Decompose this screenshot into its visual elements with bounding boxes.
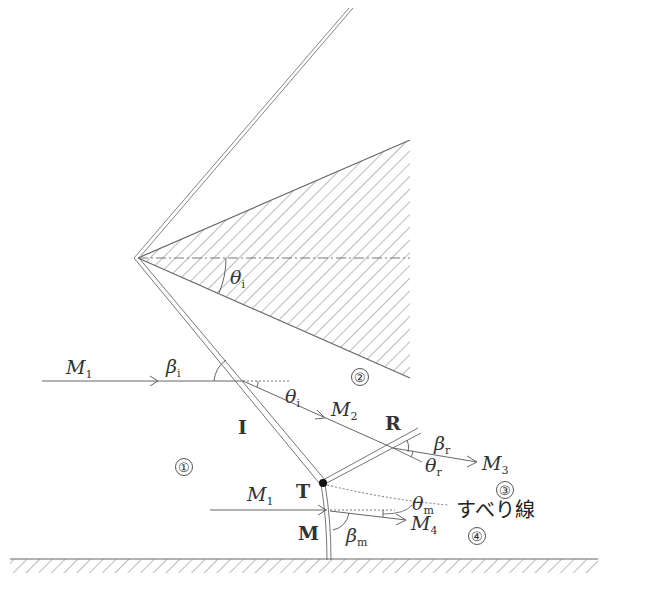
diagram-graphics xyxy=(0,0,656,593)
label-beta-r: βr xyxy=(434,434,450,456)
label-beta-m: βm xyxy=(346,526,367,548)
mach-stem-M xyxy=(321,484,331,560)
theta-r-arc xyxy=(411,451,413,457)
label-theta-i-wedge: θi xyxy=(230,268,245,290)
ground-surface xyxy=(10,559,598,573)
label-slip-line: すべり線 xyxy=(456,494,535,523)
label-beta-i: βi xyxy=(166,357,181,379)
region-2-marker: ② xyxy=(351,368,369,386)
label-incident-shock-I: I xyxy=(238,418,247,437)
region-4-marker: ④ xyxy=(468,527,486,545)
label-M4: M4 xyxy=(411,514,437,536)
reflected-shock-R xyxy=(323,428,421,485)
label-triple-point-T: T xyxy=(296,482,310,501)
label-theta-r: θr xyxy=(425,456,442,478)
theta-i-arc xyxy=(257,381,258,387)
label-M1-lower: M1 xyxy=(247,485,273,507)
label-M3: M3 xyxy=(482,454,508,476)
label-theta-i: θi xyxy=(285,387,300,409)
wedge-body xyxy=(138,140,410,378)
label-reflected-shock-R: R xyxy=(385,414,401,433)
mach-reflection-diagram: M1 βi θi θi M2 I R βr θr M3 T M1 θm M4 M… xyxy=(0,0,656,593)
label-M2: M2 xyxy=(331,400,357,422)
M2-flow-arrow xyxy=(243,381,393,448)
region-1-marker: ① xyxy=(175,458,193,476)
label-mach-stem-M: M xyxy=(298,524,319,543)
label-M1-upper: M1 xyxy=(66,358,92,380)
triple-point xyxy=(319,479,327,487)
